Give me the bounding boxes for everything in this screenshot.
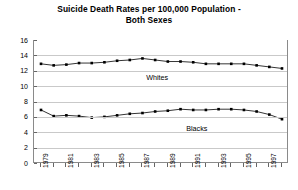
data-point-marker — [243, 109, 246, 112]
data-point-marker — [141, 112, 144, 115]
data-point-marker — [205, 63, 208, 66]
gridline — [34, 86, 287, 87]
x-tick-mark — [218, 163, 219, 167]
x-tick-mark — [256, 163, 257, 167]
data-point-marker — [40, 109, 43, 112]
gridline — [34, 71, 287, 72]
x-tick-label: 1993 — [221, 153, 228, 168]
data-point-marker — [281, 67, 284, 70]
y-tick-mark — [34, 132, 37, 133]
x-tick-label: 1991 — [195, 153, 202, 168]
chart-container: Suicide Death Rates per 100,000 Populati… — [0, 0, 298, 190]
y-tick-mark — [34, 163, 37, 164]
y-tick-mark — [34, 71, 37, 72]
y-tick-label: 8 — [0, 98, 28, 105]
x-tick-label: 1997 — [271, 153, 278, 168]
data-point-marker — [268, 113, 271, 116]
x-tick-label: 1979 — [43, 153, 50, 168]
x-tick-mark — [154, 163, 155, 167]
data-point-marker — [52, 64, 55, 67]
data-point-marker — [281, 118, 284, 121]
data-point-marker — [40, 63, 43, 66]
data-point-marker — [243, 63, 246, 66]
data-point-marker — [217, 108, 220, 111]
x-tick-label: 1981 — [68, 153, 75, 168]
data-point-marker — [217, 63, 220, 66]
chart-title-line-2: Both Sexes — [0, 15, 298, 26]
series-annotation-whites: Whites — [146, 74, 168, 82]
gridline — [34, 55, 287, 56]
data-point-marker — [78, 62, 81, 65]
y-tick-label: 10 — [0, 83, 28, 90]
x-tick-mark — [78, 163, 79, 167]
x-tick-label: 1983 — [94, 153, 101, 168]
x-tick-mark — [205, 163, 206, 167]
y-tick-mark — [34, 102, 37, 103]
y-tick-mark — [34, 55, 37, 56]
data-point-marker — [255, 64, 258, 67]
data-point-marker — [154, 110, 157, 113]
y-tick-mark — [34, 117, 37, 118]
series-annotation-blacks: Blacks — [186, 125, 207, 133]
y-tick-label: 2 — [0, 144, 28, 151]
data-point-marker — [192, 109, 195, 112]
y-tick-mark — [34, 40, 37, 41]
data-point-marker — [103, 61, 106, 64]
data-point-marker — [205, 109, 208, 112]
x-tick-label: 1995 — [246, 153, 253, 168]
y-tick-label: 12 — [0, 67, 28, 74]
data-point-marker — [65, 63, 68, 66]
data-point-marker — [128, 59, 131, 62]
data-point-marker — [116, 59, 119, 62]
gridline — [34, 102, 287, 103]
x-tick-mark — [53, 163, 54, 167]
series-line-whites — [41, 58, 282, 68]
x-tick-label: 1989 — [170, 153, 177, 168]
data-point-marker — [167, 60, 170, 63]
x-tick-mark — [40, 163, 41, 167]
x-tick-label: 1985 — [119, 153, 126, 168]
y-tick-mark — [34, 86, 37, 87]
x-tick-mark — [167, 163, 168, 167]
gridline — [34, 148, 287, 149]
y-tick-label: 14 — [0, 52, 28, 59]
data-point-marker — [167, 109, 170, 112]
data-point-marker — [268, 66, 271, 69]
data-point-marker — [179, 60, 182, 63]
chart-title: Suicide Death Rates per 100,000 Populati… — [0, 4, 298, 26]
y-tick-label: 4 — [0, 129, 28, 136]
data-point-marker — [128, 113, 131, 116]
x-tick-label: 1987 — [144, 153, 151, 168]
data-point-marker — [90, 62, 93, 65]
data-point-marker — [255, 110, 258, 113]
x-tick-mark — [230, 163, 231, 167]
x-tick-mark — [116, 163, 117, 167]
data-point-marker — [192, 61, 195, 64]
gridline — [34, 117, 287, 118]
x-tick-mark — [180, 163, 181, 167]
y-tick-label: 0 — [0, 160, 28, 167]
x-tick-mark — [243, 163, 244, 167]
x-tick-mark — [91, 163, 92, 167]
data-point-marker — [230, 108, 233, 111]
gridline — [34, 132, 287, 133]
plot-area — [33, 40, 288, 163]
data-point-marker — [154, 59, 157, 62]
data-point-marker — [230, 63, 233, 66]
chart-title-line-1: Suicide Death Rates per 100,000 Populati… — [0, 4, 298, 15]
y-tick-label: 16 — [0, 37, 28, 44]
y-tick-mark — [34, 148, 37, 149]
y-tick-label: 6 — [0, 113, 28, 120]
data-point-marker — [141, 57, 144, 60]
data-point-marker — [179, 108, 182, 111]
x-tick-mark — [129, 163, 130, 167]
x-tick-mark — [103, 163, 104, 167]
x-tick-mark — [281, 163, 282, 167]
